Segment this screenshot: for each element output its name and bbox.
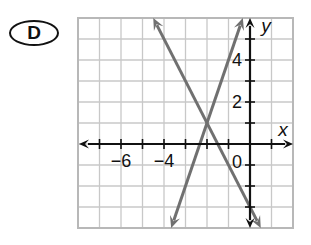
x-axis-label: x bbox=[277, 119, 289, 140]
grid-lines bbox=[78, 18, 293, 228]
y-tick-label: 2 bbox=[232, 92, 242, 112]
x-tick-label: −6 bbox=[111, 151, 132, 171]
y-tick-label: 4 bbox=[232, 50, 242, 70]
graph-figure: D −6−4240xy bbox=[0, 0, 311, 245]
y-axis-label: y bbox=[259, 15, 272, 36]
x-tick-label: −4 bbox=[154, 151, 175, 171]
coordinate-plane: −6−4240xy bbox=[0, 0, 311, 245]
origin-label: 0 bbox=[232, 152, 242, 172]
